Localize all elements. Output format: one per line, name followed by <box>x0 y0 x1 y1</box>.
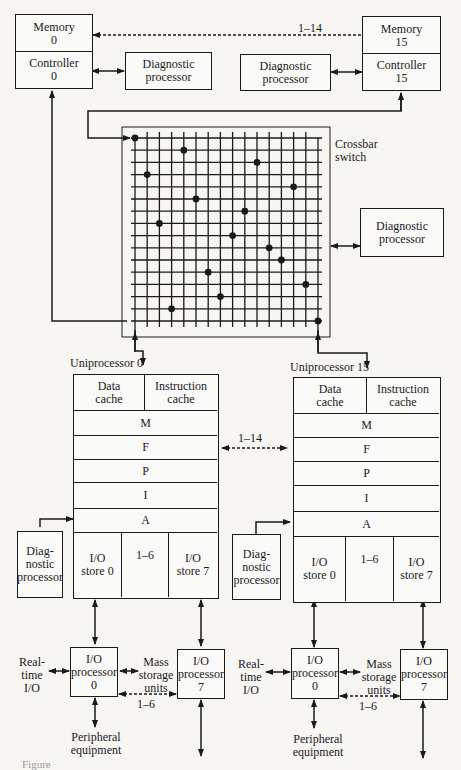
instruction-cache: Instruction cache <box>145 375 217 410</box>
crosspoint-dot <box>205 269 212 276</box>
io-store-7: I/O store 7 <box>394 536 439 601</box>
stage-a: A <box>294 511 439 536</box>
io-proc-link-label-right: 1–6 <box>358 700 378 713</box>
realtime-io-label-right: Real- time I/O <box>236 658 266 697</box>
memory-link-label: 1–14 <box>290 22 330 35</box>
crosspoint-dot <box>241 208 248 215</box>
io-processor-7-left: I/O processor 7 <box>177 649 225 699</box>
diagnostic-processor-uni-0: Diag- nostic processor <box>17 531 63 598</box>
crosspoint-dot <box>278 257 285 264</box>
peripheral-label-left: Peripheral equipment <box>68 731 124 757</box>
realtime-io-label-left: Real- time I/O <box>17 656 47 695</box>
crosspoint-dot <box>302 281 309 288</box>
io-store-link-label: 1–6 <box>122 532 169 597</box>
stage-m: M <box>294 413 439 437</box>
stage-m: M <box>74 410 217 435</box>
crosspoint-dot <box>144 171 151 178</box>
controller-0-box: Controller 0 <box>15 51 93 89</box>
controller-15-box: Controller 15 <box>362 53 441 91</box>
io-store-0: I/O store 0 <box>294 536 346 601</box>
stage-f: F <box>74 435 217 459</box>
instruction-cache: Instruction cache <box>367 378 439 413</box>
peripheral-label-right: Peripheral equipment <box>290 733 346 759</box>
memory-15-box: Memory 15 <box>362 16 441 55</box>
crosspoint-dot <box>156 220 163 227</box>
io-store-7: I/O store 7 <box>169 532 217 597</box>
crossbar-switch-label: Crossbar switch <box>335 138 378 164</box>
memory-0-box: Memory 0 <box>15 14 93 53</box>
data-cache: Data cache <box>74 375 145 410</box>
diagnostic-processor-uni-15: Diag- nostic processor <box>232 534 281 600</box>
crosspoint-dot <box>168 305 175 312</box>
crosspoint-dot <box>217 293 224 300</box>
crosspoint-dot <box>254 159 261 166</box>
io-store-0: I/O store 0 <box>74 532 122 597</box>
stage-f: F <box>294 437 439 461</box>
io-processor-0-right: I/O processor 0 <box>291 648 339 699</box>
diagnostic-processor-top-left: Diagnostic processor <box>125 52 212 90</box>
uniprocessor-15-label: Uniprocessor 15 <box>290 361 369 374</box>
stage-p: P <box>294 461 439 485</box>
uniprocessor-0-label: Uniprocessor 0 <box>70 357 143 370</box>
crosspoint-dot <box>290 183 297 190</box>
io-store-link-label: 1–6 <box>346 536 394 601</box>
data-cache: Data cache <box>294 378 367 413</box>
diagnostic-processor-top-right: Diagnostic processor <box>240 54 331 91</box>
stage-p: P <box>74 459 217 482</box>
crosspoint-dot <box>229 232 236 239</box>
uniprocessor-15-box: Data cache Instruction cache M F P I A I… <box>293 377 441 603</box>
stage-a: A <box>74 508 217 532</box>
crosspoint-dot <box>193 196 200 203</box>
uniprocessor-link-label: 1–14 <box>238 432 262 445</box>
io-processor-7-right: I/O processor 7 <box>400 649 448 700</box>
mass-storage-label-left: Mass storage units <box>136 656 176 695</box>
figure-caption: Figure <box>22 758 51 770</box>
io-processor-0-left: I/O processor 0 <box>70 647 118 697</box>
stage-i: I <box>294 485 439 511</box>
uniprocessor-0-box: Data cache Instruction cache M F P I A I… <box>73 374 219 599</box>
crosspoint-dot <box>315 318 322 325</box>
crosspoint-dot <box>180 147 187 154</box>
diagnostic-processor-crossbar: Diagnostic processor <box>360 208 444 257</box>
crosspoint-dot <box>132 135 139 142</box>
stage-i: I <box>74 482 217 508</box>
io-proc-link-label-left: 1–6 <box>136 698 156 711</box>
mass-storage-label-right: Mass storage units <box>358 658 400 697</box>
crosspoint-dot <box>266 244 273 251</box>
